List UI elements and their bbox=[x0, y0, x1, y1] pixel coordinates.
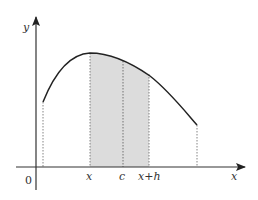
x-axis-label: x bbox=[231, 170, 238, 183]
tick-label-x: x bbox=[86, 170, 93, 183]
area-under-curve-diagram: y x 0 x c x+h bbox=[0, 0, 258, 200]
y-axis-label: y bbox=[22, 21, 30, 34]
tick-label-c: c bbox=[119, 170, 125, 183]
tick-label-x-plus-h: x+h bbox=[138, 170, 161, 183]
origin-label: 0 bbox=[25, 174, 32, 187]
